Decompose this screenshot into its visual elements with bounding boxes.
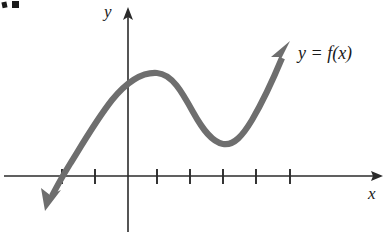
figure-canvas: y x y = f(x) xyxy=(0,0,389,236)
y-axis xyxy=(123,7,133,232)
graph-svg: y x y = f(x) xyxy=(0,0,389,236)
function-curve xyxy=(41,41,290,211)
corner-mark xyxy=(1,1,19,8)
y-axis-label: y xyxy=(102,2,112,21)
function-label: y = f(x) xyxy=(296,43,352,64)
x-axis-label: x xyxy=(367,184,376,203)
